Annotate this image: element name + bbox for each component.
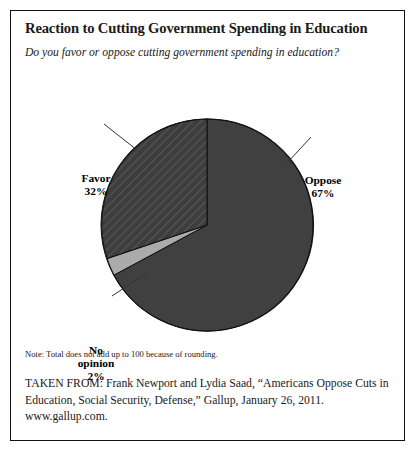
pie-chart-svg (11, 73, 404, 343)
leader-line-favor (104, 124, 142, 154)
callout-favor: Favor 32% (73, 172, 119, 198)
chart-title: Reaction to Cutting Government Spending … (25, 20, 395, 37)
leader-line-oppose (287, 137, 311, 163)
callout-oppose: Oppose 67% (296, 174, 350, 200)
chart-note: Note: Total does not add up to 100 becau… (25, 349, 385, 360)
source-attribution: TAKEN FROM: Frank Newport and Lydia Saad… (25, 376, 393, 426)
callout-oppose-label: Oppose (305, 174, 342, 186)
callout-favor-value: 32% (85, 185, 108, 197)
figure-frame: Reaction to Cutting Government Spending … (10, 10, 405, 441)
pie-chart: Favor 32% Oppose 67% No opinion 2% (11, 73, 404, 343)
chart-subtitle: Do you favor or oppose cutting governmen… (25, 46, 393, 60)
callout-oppose-value: 67% (312, 187, 335, 199)
callout-favor-label: Favor (81, 172, 110, 184)
